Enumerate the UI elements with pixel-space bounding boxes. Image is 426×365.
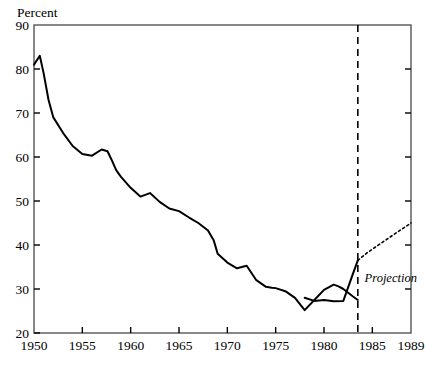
x-tick-label: 1950 xyxy=(21,338,48,353)
x-tick-label: 1989 xyxy=(398,338,425,353)
y-tick-label: 30 xyxy=(16,282,30,297)
y-tick-label: 50 xyxy=(16,194,30,209)
series-line xyxy=(34,56,358,310)
plot-frame xyxy=(34,25,411,333)
x-tick-label: 1975 xyxy=(262,338,289,353)
x-tick-label: 1985 xyxy=(359,338,386,353)
series-line xyxy=(358,223,411,260)
y-tick-label: 70 xyxy=(16,106,30,121)
x-tick-label: 1970 xyxy=(214,338,241,353)
y-tick-label: 60 xyxy=(16,150,30,165)
data-series-group xyxy=(34,56,411,310)
chart-annotations: Projection xyxy=(364,271,417,285)
line-chart: 2030405060708090 19501955196019651970197… xyxy=(0,0,426,365)
y-axis-ticks-right xyxy=(405,69,411,289)
x-tick-label: 1960 xyxy=(117,338,144,353)
x-tick-label: 1980 xyxy=(311,338,338,353)
y-axis-ticks xyxy=(34,69,40,333)
y-tick-label: 80 xyxy=(16,62,30,77)
y-axis-tick-labels: 2030405060708090 xyxy=(16,18,30,341)
x-axis-ticks xyxy=(82,327,372,333)
x-tick-label: 1965 xyxy=(166,338,193,353)
y-axis-title: Percent xyxy=(17,5,58,20)
x-tick-label: 1955 xyxy=(69,338,96,353)
y-tick-label: 40 xyxy=(16,238,30,253)
plot-area-border xyxy=(34,25,411,333)
x-axis-tick-labels: 195019551960196519701975198019851989 xyxy=(21,338,425,353)
projection-annotation: Projection xyxy=(364,271,417,285)
chart-figure: 2030405060708090 19501955196019651970197… xyxy=(0,0,426,365)
